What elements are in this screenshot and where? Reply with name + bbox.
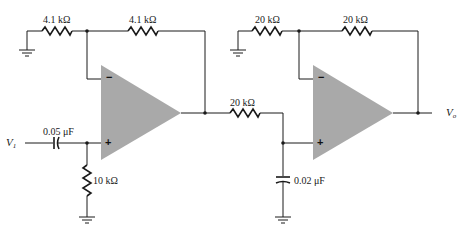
input-label-subscript: 1 <box>13 142 17 150</box>
ground-icon <box>230 31 252 56</box>
output-label: Vo <box>446 107 456 120</box>
output-label-subscript: o <box>453 112 457 120</box>
ground-icon <box>19 31 42 56</box>
opamp1-minus: − <box>106 72 112 83</box>
output-label-main: V <box>446 106 453 118</box>
ground-icon <box>275 217 291 223</box>
label-c2: 0.02 μF <box>294 176 325 186</box>
opamp-1 <box>101 65 181 160</box>
resistor-r1 <box>42 27 72 35</box>
input-label-main: V <box>6 136 13 148</box>
label-r6: 20 kΩ <box>343 15 368 25</box>
opamp-2 <box>313 65 393 160</box>
label-c1: 0.05 μF <box>43 127 74 137</box>
schematic-wires <box>0 0 465 240</box>
label-r1: 4.1 kΩ <box>43 15 70 25</box>
resistor-r2 <box>128 27 158 35</box>
label-r2: 4.1 kΩ <box>129 15 156 25</box>
opamp2-plus: + <box>317 137 323 148</box>
opamp1-plus: + <box>105 137 111 148</box>
ground-icon <box>79 217 95 223</box>
label-r4: 20 kΩ <box>230 98 255 108</box>
input-label: V1 <box>6 137 16 150</box>
resistor-r6 <box>342 27 372 35</box>
resistor-r3 <box>83 165 91 196</box>
resistor-r5 <box>252 27 282 35</box>
label-r5: 20 kΩ <box>255 15 280 25</box>
label-r3: 10 kΩ <box>93 176 118 186</box>
circuit-diagram: 4.1 kΩ 4.1 kΩ 0.05 μF 10 kΩ 20 kΩ 0.02 μ… <box>0 0 465 240</box>
opamp2-minus: − <box>318 72 324 83</box>
resistor-r4 <box>230 109 260 117</box>
